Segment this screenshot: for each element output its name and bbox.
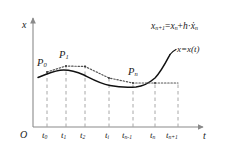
tick-label-tn: tn [150,131,155,141]
point-label-p1: P1 [59,50,69,61]
point-label-pn: Pn [128,67,138,78]
euler-method-diagram: x t O P0 P1 Pn x=x(t) xn+1=xn+h·ẋn t0 t… [0,0,230,160]
formula-lhs-sub: n+1 [155,25,165,31]
tick-label-t1-sub: 1 [64,134,67,140]
y-axis-label: x [22,20,26,30]
origin-label: O [20,130,27,140]
tick-label-ti-sub: i [108,134,110,140]
node-Pn [154,82,156,84]
tick-label-t2-sub: 2 [83,134,86,140]
tick-label-ti: ti [105,131,109,141]
tick-label-t0-sub: 0 [45,134,48,140]
point-label-p0-sub: 0 [43,61,46,68]
tick-label-tn+1: tn+1 [166,131,178,141]
curve-label-leader [170,50,176,55]
tick-label-t2: t2 [80,131,85,141]
node-Pn-1 [132,82,134,84]
point-label-p0: P0 [37,58,47,69]
tick-label-t1: t1 [61,131,66,141]
x-axis-label: t [203,131,206,141]
node-Pi [108,77,110,79]
node-P0 [46,71,48,73]
node-P1 [65,65,67,67]
tick-label-tn-1: tn-1 [122,131,132,141]
tick-label-tn+1-sub: n+1 [169,134,178,140]
node-P2 [84,66,86,68]
curve-label: x=x(t) [177,45,200,54]
euler-nodes [46,65,156,84]
point-label-p1-sub: 1 [65,53,68,60]
formula-deriv-sub: n [195,25,198,31]
point-label-pn-sub: n [134,70,137,77]
tick-label-tn-1-sub: n-1 [125,134,132,140]
solution-curve [38,55,170,88]
tick-label-t0: t0 [42,131,47,141]
euler-formula: xn+1=xn+h·ẋn [151,22,198,32]
tick-label-tn-sub: n [153,134,156,140]
